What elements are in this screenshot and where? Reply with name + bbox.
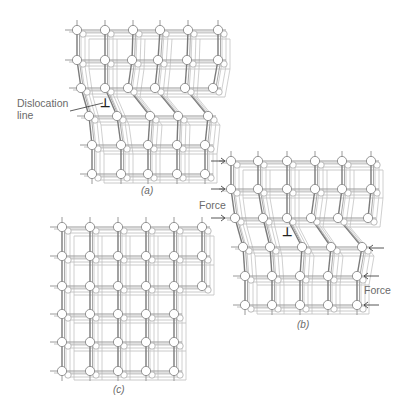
atom <box>197 251 206 260</box>
atom <box>72 25 81 34</box>
dislocation-leader-line <box>70 103 103 111</box>
atom <box>282 213 291 222</box>
atom <box>169 309 178 318</box>
dislocation-symbol-b: ⊥ <box>282 226 292 238</box>
atom <box>128 25 137 34</box>
atom <box>238 242 247 251</box>
atom <box>84 111 93 120</box>
atom <box>85 309 94 318</box>
atom <box>169 337 178 346</box>
atom <box>366 184 375 193</box>
force-label-right: Force <box>364 284 391 296</box>
atom <box>295 271 304 280</box>
crystal-dislocation-figure: Dislocation line ⊥ ⊥ (a) (b) (c) Force F… <box>0 0 410 404</box>
force-label-left: Force <box>199 199 226 211</box>
atom <box>352 271 361 280</box>
atom <box>357 242 366 251</box>
atom <box>85 281 94 290</box>
atom <box>310 184 319 193</box>
atom <box>258 213 267 222</box>
bond-back <box>350 198 354 227</box>
bond-back <box>197 69 199 97</box>
atom <box>116 169 125 178</box>
atom <box>113 281 122 290</box>
atom <box>197 222 206 231</box>
atom <box>127 55 136 64</box>
atom <box>141 309 150 318</box>
atom <box>153 55 162 64</box>
dislocation-label-line1: Dislocation <box>17 97 68 109</box>
atom <box>253 156 262 165</box>
atom <box>173 111 182 120</box>
atom <box>113 251 122 260</box>
atom <box>85 251 94 260</box>
atom <box>172 169 181 178</box>
atom <box>230 213 239 222</box>
atom <box>169 281 178 290</box>
atom <box>169 251 178 260</box>
bond-back <box>160 125 162 154</box>
atom <box>363 213 372 222</box>
atom <box>323 271 332 280</box>
bond-back <box>255 256 257 285</box>
atom <box>112 111 121 120</box>
atom <box>155 25 164 34</box>
bond-back <box>225 69 230 97</box>
bond-back <box>144 39 145 69</box>
atom <box>366 156 375 165</box>
bond-back <box>167 69 170 97</box>
atom <box>172 140 181 149</box>
bond-back <box>323 198 327 227</box>
bond-back <box>369 256 374 285</box>
atom <box>240 300 249 309</box>
atom <box>116 140 125 149</box>
atom <box>208 83 217 92</box>
atom <box>323 300 332 309</box>
atom <box>72 55 81 64</box>
atom <box>297 242 306 251</box>
atom <box>265 242 274 251</box>
caption-a: (a) <box>141 185 153 196</box>
atom <box>57 222 66 231</box>
bond-back <box>199 39 200 69</box>
atom <box>282 184 291 193</box>
atom <box>141 337 150 346</box>
atom <box>113 222 122 231</box>
bond-back <box>170 39 172 69</box>
atom <box>100 55 109 64</box>
atom <box>57 309 66 318</box>
bond-back <box>189 125 190 154</box>
atom <box>100 83 109 92</box>
atom <box>310 156 319 165</box>
atom <box>85 366 94 375</box>
atom <box>183 25 192 34</box>
atom <box>57 337 66 346</box>
atom <box>337 156 346 165</box>
atom <box>100 25 109 34</box>
atom <box>150 83 159 92</box>
atom <box>123 83 132 92</box>
atom <box>213 25 222 34</box>
caption-c: (c) <box>113 384 125 395</box>
bond-back <box>140 69 144 97</box>
bond-back <box>340 256 343 285</box>
atom <box>169 222 178 231</box>
dislocation-label-line2: line <box>17 109 68 121</box>
atom <box>169 366 178 375</box>
atom <box>326 242 335 251</box>
dislocation-symbol-a: ⊥ <box>100 97 110 109</box>
atom <box>141 281 150 290</box>
atom <box>253 184 262 193</box>
atom <box>337 184 346 193</box>
atom <box>57 281 66 290</box>
atom <box>87 140 96 149</box>
atom <box>141 366 150 375</box>
atom <box>203 111 212 120</box>
atom <box>76 83 85 92</box>
atom <box>57 251 66 260</box>
atom <box>295 300 304 309</box>
atom <box>180 83 189 92</box>
atom <box>113 366 122 375</box>
atom <box>143 169 152 178</box>
dislocation-line-label: Dislocation line <box>17 97 68 121</box>
